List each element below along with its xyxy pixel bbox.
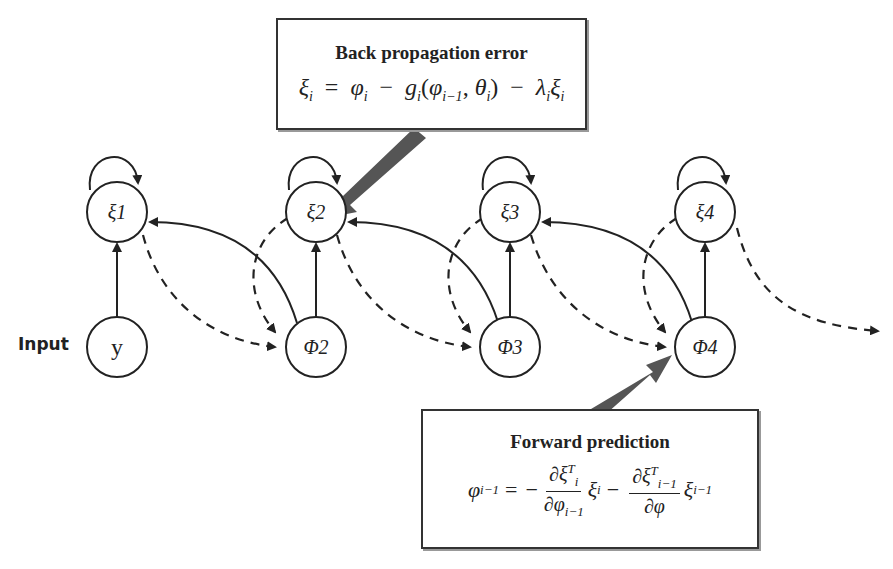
eq-term: ξ	[684, 477, 693, 503]
eq-term: ξ	[588, 477, 597, 503]
nodes	[87, 182, 735, 377]
eq-op: −	[525, 477, 537, 503]
eq-op: −	[607, 477, 619, 503]
label-phi3: Φ3	[497, 336, 522, 358]
node-labels: ξ1 y ξ2 Φ2 ξ3 Φ3 ξ4 Φ4	[108, 201, 718, 360]
eq-sub: i−1	[565, 504, 584, 519]
feedback-arrows	[150, 222, 692, 323]
eq-sub: i−1	[442, 89, 462, 104]
forward-prediction-box: Forward prediction φi−1 = − ∂ξTi ∂φi−1 ξ…	[421, 409, 759, 549]
eq-term: g	[405, 74, 417, 100]
fraction-denominator: ∂φi−1	[544, 492, 584, 520]
eq-term: φ	[429, 74, 442, 100]
fraction-numerator: ∂ξTi−1	[629, 463, 680, 494]
eq-term: φ	[350, 74, 363, 100]
label-xi1: ξ1	[108, 201, 127, 223]
label-phi2: Φ2	[303, 336, 328, 358]
eq-sub: i−1	[693, 482, 712, 498]
input-label: Input	[18, 334, 69, 354]
forward-prediction-equation: φi−1 = − ∂ξTi ∂φi−1 ξi − ∂ξTi−1 ∂φ ξi−1	[423, 461, 757, 520]
eq-op: −	[380, 74, 394, 100]
label-xi4: ξ4	[696, 201, 715, 223]
fraction-denominator: ∂φ	[644, 494, 665, 518]
eq-op: =	[325, 74, 339, 100]
eq-term: ∂φ	[644, 495, 665, 517]
eq-term: ξ	[550, 74, 560, 100]
label-xi3: ξ3	[501, 201, 520, 223]
eq-sup: T	[651, 463, 658, 478]
self-loop-arrows	[90, 157, 726, 190]
eq-term: ∂ξ	[549, 463, 567, 485]
pointer-arrows	[326, 128, 672, 421]
eq-sup: T	[568, 461, 575, 476]
eq-op: =	[505, 477, 517, 503]
label-y: y	[111, 334, 123, 360]
fraction-numerator: ∂ξTi	[546, 461, 581, 492]
eq-sub: i	[560, 89, 564, 104]
eq-paren: )	[490, 74, 498, 100]
eq-sub: i−1	[480, 482, 499, 498]
back-propagation-title: Back propagation error	[278, 42, 585, 64]
eq-sub: i−1	[658, 476, 677, 491]
eq-sub: i	[364, 89, 368, 104]
eq-term: φ	[468, 477, 480, 503]
eq-term: ∂φ	[544, 493, 565, 515]
eq-sub: i	[309, 89, 313, 104]
back-propagation-equation: ξi = φi − gi(φi−1, θi) − λiξi	[278, 74, 585, 105]
label-xi2: ξ2	[307, 201, 326, 223]
fraction-1: ∂ξTi ∂φi−1	[544, 461, 584, 520]
eq-term: λ	[536, 74, 546, 100]
eq-sub: i	[597, 482, 601, 498]
back-propagation-box: Back propagation error ξi = φi − gi(φi−1…	[276, 18, 587, 130]
fraction-2: ∂ξTi−1 ∂φ	[629, 463, 680, 518]
eq-term: ∂ξ	[632, 465, 650, 487]
label-phi4: Φ4	[692, 336, 717, 358]
eq-comma: ,	[463, 74, 475, 100]
eq-paren: (	[421, 74, 429, 100]
eq-term: θ	[475, 74, 487, 100]
forward-prediction-title: Forward prediction	[423, 431, 757, 453]
eq-sub: i	[575, 474, 579, 489]
eq-op: −	[510, 74, 524, 100]
vertical-arrows	[117, 244, 705, 317]
eq-term: ξ	[299, 74, 309, 100]
